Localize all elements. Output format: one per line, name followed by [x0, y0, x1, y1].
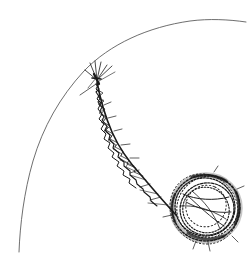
particle-track-drawing [0, 0, 251, 266]
burst-core-2 [92, 78, 101, 79]
figure-canvas [0, 0, 251, 266]
background-rect [0, 0, 251, 266]
